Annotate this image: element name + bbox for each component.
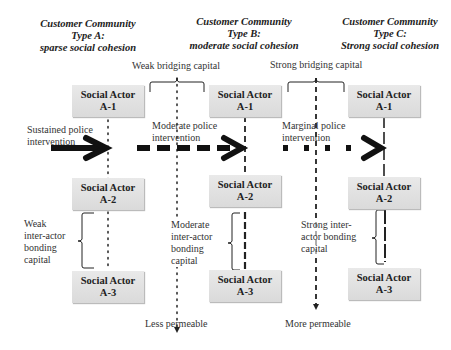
label-line: intervention [282, 132, 345, 144]
label-line: intervention [152, 132, 217, 144]
actor-id: A-1 [348, 101, 420, 113]
label-line: capital [171, 255, 212, 267]
actor-id: A-3 [209, 286, 281, 298]
bonding-brace-b [228, 213, 240, 270]
bonding-brace-a [78, 213, 94, 268]
actor-id: A-2 [72, 194, 144, 206]
actor-name: Social Actor [348, 89, 420, 101]
label-line: inter-actor [24, 230, 65, 242]
label-line: bonding [171, 243, 212, 255]
actor-box-c-3: Social Actor A-3 [348, 268, 420, 300]
actor-box-b-3: Social Actor A-3 [209, 270, 281, 302]
actor-id: A-2 [348, 193, 420, 205]
label-line: bonding [24, 242, 65, 254]
actor-box-c-1: Social Actor A-1 [348, 85, 420, 117]
permeability-label-more: More permeable [285, 318, 351, 330]
actor-name: Social Actor [348, 181, 420, 193]
label-line: Moderate police [152, 120, 217, 132]
actor-name: Social Actor [72, 89, 144, 101]
label-line: inter-actor [171, 231, 212, 243]
bonding-label-strong: Strong inter- actor bonding capital [301, 219, 356, 255]
label-line: Marginal police [282, 120, 345, 132]
intervention-label-marginal: Marginal police intervention [282, 120, 345, 144]
actor-name: Social Actor [72, 275, 144, 287]
label-line: Strong inter- [301, 219, 356, 231]
bridging-arrowhead-strong [313, 304, 319, 310]
actor-name: Social Actor [348, 272, 420, 284]
label-line: intervention [27, 136, 93, 148]
actor-box-c-2: Social Actor A-2 [348, 177, 420, 209]
intervention-label-moderate: Moderate police intervention [152, 120, 217, 144]
actor-id: A-2 [209, 191, 281, 203]
permeability-label-less: Less permeable [145, 318, 207, 330]
actor-name: Social Actor [209, 89, 281, 101]
bonding-brace-c [372, 210, 384, 264]
actor-id: A-1 [209, 101, 281, 113]
label-line: Sustained police [27, 124, 93, 136]
actor-name: Social Actor [72, 182, 144, 194]
actor-id: A-3 [72, 287, 144, 299]
actor-box-b-2: Social Actor A-2 [209, 175, 281, 207]
bonding-label-moderate: Moderate inter-actor bonding capital [171, 219, 212, 267]
label-line: actor bonding [301, 231, 356, 243]
actor-box-a-2: Social Actor A-2 [72, 178, 144, 210]
label-line: capital [24, 254, 65, 266]
actor-box-a-1: Social Actor A-1 [72, 85, 144, 117]
actor-id: A-3 [348, 284, 420, 296]
bonding-label-weak: Weak inter-actor bonding capital [24, 218, 65, 266]
actor-name: Social Actor [209, 274, 281, 286]
actor-box-a-3: Social Actor A-3 [72, 271, 144, 303]
label-line: Weak [24, 218, 65, 230]
actor-id: A-1 [72, 101, 144, 113]
intervention-label-sustained: Sustained police intervention [27, 124, 93, 148]
label-line: capital [301, 243, 356, 255]
label-line: Moderate [171, 219, 212, 231]
intervention-arrow-marginal-head [364, 138, 381, 158]
actor-name: Social Actor [209, 179, 281, 191]
actor-box-b-1: Social Actor A-1 [209, 85, 281, 117]
